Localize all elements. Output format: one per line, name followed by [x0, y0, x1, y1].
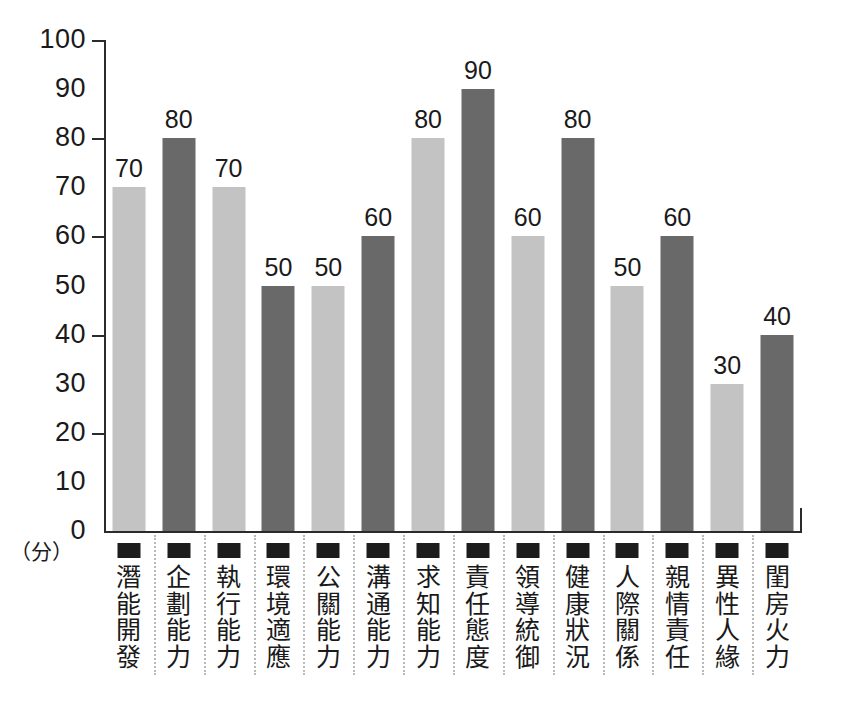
bar[interactable]: [761, 335, 794, 531]
category-item[interactable]: 執行能力: [204, 533, 254, 701]
category-item[interactable]: 溝通能力: [353, 533, 403, 701]
category-marker-icon: [367, 543, 390, 558]
bar[interactable]: [412, 138, 445, 531]
bar[interactable]: [711, 384, 744, 531]
category-label: 溝通能力: [364, 565, 392, 671]
bar-group: 50: [254, 40, 304, 531]
bar-group: 80: [154, 40, 204, 531]
bar[interactable]: [661, 236, 694, 531]
category-label: 異性人緣: [713, 565, 741, 671]
bar[interactable]: [611, 286, 644, 532]
category-marker-icon: [466, 543, 489, 558]
bar[interactable]: [362, 236, 395, 531]
category-separator: [752, 535, 754, 675]
category-label: 潛能開發: [115, 565, 143, 671]
bar-chart: 100 90 80 70 60 50 40 30 20 10 0 （分） 708…: [0, 0, 861, 701]
y-tick-label-30: 30: [12, 370, 86, 397]
category-separator: [702, 535, 704, 675]
y-tick-label-50: 50: [12, 272, 86, 299]
bar-group: 80: [553, 40, 603, 531]
category-separator: [403, 535, 405, 675]
category-marker-icon: [317, 543, 340, 558]
bar-group: 60: [353, 40, 403, 531]
category-separator: [303, 535, 305, 675]
category-label: 責任態度: [464, 565, 492, 671]
bar[interactable]: [511, 236, 544, 531]
bar-group: 60: [652, 40, 702, 531]
y-tick-label-40: 40: [12, 321, 86, 348]
category-marker-icon: [566, 543, 589, 558]
category-label: 領導統御: [514, 565, 542, 671]
bar-value-label: 70: [115, 156, 143, 181]
bar-group: 60: [503, 40, 553, 531]
category-item[interactable]: 異性人緣: [702, 533, 752, 701]
y-tick-label-100: 100: [12, 26, 86, 53]
bar[interactable]: [162, 138, 195, 531]
category-label: 執行能力: [215, 565, 243, 671]
category-separator: [553, 535, 555, 675]
bar-value-label: 50: [314, 255, 342, 280]
category-marker-icon: [616, 543, 639, 558]
bar[interactable]: [461, 89, 494, 531]
category-marker-icon: [716, 543, 739, 558]
bar-group: 70: [204, 40, 254, 531]
category-item[interactable]: 企劃能力: [154, 533, 204, 701]
category-item[interactable]: 公關能力: [303, 533, 353, 701]
category-marker-icon: [666, 543, 689, 558]
category-item[interactable]: 潛能開發: [104, 533, 154, 701]
y-tick-label-20: 20: [12, 419, 86, 446]
category-marker-icon: [766, 543, 789, 558]
category-separator: [154, 535, 156, 675]
bar-group: 70: [104, 40, 154, 531]
y-axis-unit-label: （分）: [10, 541, 73, 562]
bar-value-label: 60: [663, 205, 691, 230]
bar-group: 50: [603, 40, 653, 531]
bar-group: 50: [303, 40, 353, 531]
bar[interactable]: [212, 187, 245, 531]
category-axis: 潛能開發企劃能力執行能力環境適應公關能力溝通能力求知能力責任態度領導統御健康狀況…: [104, 533, 802, 701]
category-label: 人際關係: [613, 565, 641, 671]
category-item[interactable]: 環境適應: [254, 533, 304, 701]
category-item[interactable]: 健康狀況: [553, 533, 603, 701]
category-separator: [503, 535, 505, 675]
category-marker-icon: [217, 543, 240, 558]
bar[interactable]: [561, 138, 594, 531]
y-tick-label-80: 80: [12, 124, 86, 151]
bar-group: 30: [702, 40, 752, 531]
category-item[interactable]: 責任態度: [453, 533, 503, 701]
category-marker-icon: [516, 543, 539, 558]
category-label: 求知能力: [414, 565, 442, 671]
bar-group: 90: [453, 40, 503, 531]
category-label: 企劃能力: [165, 565, 193, 671]
category-item[interactable]: 求知能力: [403, 533, 453, 701]
category-item[interactable]: 人際關係: [603, 533, 653, 701]
category-label: 親情責任: [663, 565, 691, 671]
category-separator: [204, 535, 206, 675]
category-label: 環境適應: [264, 565, 292, 671]
category-separator: [353, 535, 355, 675]
bar-value-label: 80: [564, 107, 592, 132]
bar-value-label: 60: [514, 205, 542, 230]
category-label: 閨房火力: [763, 565, 791, 671]
category-marker-icon: [417, 543, 440, 558]
category-marker-icon: [117, 543, 140, 558]
bar-value-label: 30: [713, 353, 741, 378]
bar[interactable]: [112, 187, 145, 531]
y-tick-label-90: 90: [12, 75, 86, 102]
category-item[interactable]: 親情責任: [652, 533, 702, 701]
category-marker-icon: [267, 543, 290, 558]
bar[interactable]: [262, 286, 295, 532]
bar-value-label: 40: [763, 304, 791, 329]
category-separator: [254, 535, 256, 675]
bar-value-label: 70: [215, 156, 243, 181]
category-item[interactable]: 閨房火力: [752, 533, 802, 701]
y-tick-label-10: 10: [12, 468, 86, 495]
category-label: 公關能力: [314, 565, 342, 671]
category-label: 健康狀況: [564, 565, 592, 671]
category-separator: [453, 535, 455, 675]
category-separator: [603, 535, 605, 675]
category-item[interactable]: 領導統御: [503, 533, 553, 701]
bar-value-label: 90: [464, 58, 492, 83]
y-tick-label-70: 70: [12, 173, 86, 200]
bar[interactable]: [312, 286, 345, 532]
